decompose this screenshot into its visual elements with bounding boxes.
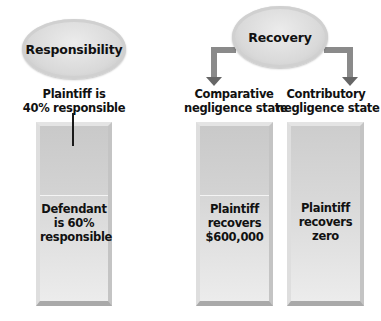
comparative-result-line1: Plaintiff [200, 202, 269, 216]
arrow-to-contributory-icon [324, 50, 358, 86]
contributory-label-line1: Contributory [276, 88, 376, 102]
contributory-result-text: Plaintiff recovers zero [291, 201, 360, 243]
responsibility-column: Defendant is 60% responsible [36, 122, 112, 306]
plaintiff-responsibility-label: Plaintiff is 40% responsible [14, 88, 134, 115]
defendant-line3: responsible [40, 230, 108, 244]
comparative-top-segment [200, 126, 269, 195]
comparative-label-line2: negligence state [184, 102, 284, 116]
contributory-label-line2: negligence state [276, 102, 376, 116]
contributory-result-line2: recovers [291, 215, 360, 229]
comparative-column: Plaintiff recovers $600,000 [196, 122, 273, 306]
comparative-recovery-segment: Plaintiff recovers $600,000 [200, 195, 269, 301]
defendant-line1: Defendant [40, 202, 108, 216]
responsibility-ellipse: Responsibility [22, 19, 126, 79]
defendant-line2: is 60% [40, 216, 108, 230]
comparative-negligence-label: Comparative negligence state [184, 88, 284, 115]
defendant-share-segment: Defendant is 60% responsible [40, 195, 108, 301]
comparative-result-line3: $600,000 [200, 230, 269, 244]
contributory-result-line3: zero [291, 229, 360, 243]
arrow-to-comparative-icon [206, 50, 236, 86]
contributory-result-line1: Plaintiff [291, 201, 360, 215]
recovery-title: Recovery [248, 30, 311, 45]
plaintiff-share-segment [40, 126, 108, 195]
comparative-label-line1: Comparative [184, 88, 284, 102]
contributory-segment: Plaintiff recovers zero [291, 126, 360, 301]
comparative-result-line2: recovers [200, 216, 269, 230]
defendant-share-text: Defendant is 60% responsible [40, 202, 108, 244]
recovery-ellipse: Recovery [232, 6, 328, 68]
contributory-negligence-label: Contributory negligence state [276, 88, 376, 115]
responsibility-title: Responsibility [26, 42, 123, 57]
comparative-result-text: Plaintiff recovers $600,000 [200, 202, 269, 244]
plaintiff-pointer-line [72, 113, 74, 146]
plaintiff-label-line2: 40% responsible [14, 102, 134, 116]
contributory-column: Plaintiff recovers zero [287, 122, 364, 306]
plaintiff-label-line1: Plaintiff is [14, 88, 134, 102]
